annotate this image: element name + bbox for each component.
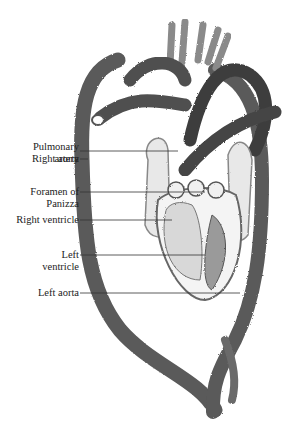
heart-ventricles: [157, 180, 242, 300]
label-right-aorta: Right aorta: [32, 153, 79, 165]
label-line: ventricle: [42, 261, 79, 273]
heart-diagram: [0, 0, 307, 426]
label-line: Panizza: [30, 198, 79, 210]
label-left-ventricle: Left ventricle: [42, 249, 79, 273]
label-right-ventricle: Right ventricle: [16, 214, 79, 226]
label-line: Right ventricle: [16, 214, 79, 226]
carotid-vessels: [170, 22, 228, 68]
label-left-aorta: Left aorta: [38, 287, 79, 299]
label-line: Left: [42, 249, 79, 261]
label-foramen-of-panizza: Foramen of Panizza: [30, 186, 79, 210]
label-line: Foramen of: [30, 186, 79, 198]
label-line: Right aorta: [32, 153, 79, 165]
label-line: Left aorta: [38, 287, 79, 299]
label-line: Pulmonary: [33, 141, 79, 153]
